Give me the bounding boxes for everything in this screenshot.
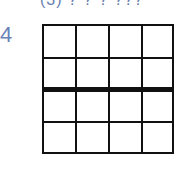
cropped-heading-text: (3) ? ? ? ???: [40, 0, 144, 9]
grid-row-divider: [44, 57, 172, 59]
sudoku-grid: [42, 24, 174, 154]
grid-thick-row-divider: [44, 87, 172, 92]
grid-row-divider: [44, 121, 172, 123]
problem-number: 4: [0, 22, 12, 48]
